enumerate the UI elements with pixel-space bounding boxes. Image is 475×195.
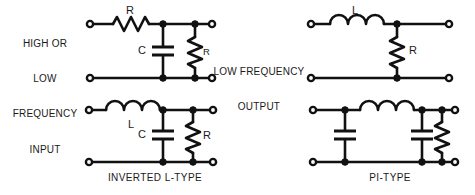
terminal-input-top-left-a [87,21,93,27]
circuit-top-left [87,17,215,81]
label-bl-load-resistor: R [203,129,211,142]
input-label-line-1: HIGH OR [6,38,84,50]
output-label-line-2: OUTPUT [211,101,307,113]
terminal-input-bottom-left-a [86,107,92,113]
label-tr-load-resistor: R [409,44,417,57]
input-label: HIGH OR LOW FREQUENCY INPUT [6,14,84,179]
label-tl-series-resistor: R [126,4,134,17]
input-label-line-2: LOW [6,73,84,85]
terminal-output-top-left-a [209,21,215,27]
input-label-line-4: INPUT [6,144,84,156]
terminal-input-bottom-left-b [86,159,92,165]
label-tl-load-resistor: R [203,46,210,57]
label-tl-shunt-capacitor: C [138,44,146,57]
terminal-input-top-left-b [87,75,93,81]
output-label-line-1: LOW FREQUENCY [211,66,307,78]
terminal-output-top-right-b [446,75,452,81]
terminal-input-top-right-b [308,75,314,81]
terminal-output-bottom-right-b [452,159,458,165]
input-label-line-3: FREQUENCY [6,108,84,120]
caption-inverted-l-type: INVERTED L-TYPE [90,172,220,184]
circuit-bottom-right [310,101,458,165]
label-bl-shunt-capacitor: C [138,128,146,141]
terminal-input-bottom-right-a [310,107,316,113]
circuit-top-right [308,15,452,81]
label-tr-series-inductor: L [352,4,358,17]
label-bl-series-inductor: L [128,118,134,131]
terminal-output-bottom-right-a [452,107,458,113]
terminal-output-bottom-left-b [210,159,216,165]
terminal-input-bottom-right-b [310,159,316,165]
output-label: LOW FREQUENCY OUTPUT [211,42,307,136]
caption-pi-type: PI-TYPE [340,172,440,184]
figure-canvas: HIGH OR LOW FREQUENCY INPUT LOW FREQUENC… [0,0,475,195]
terminal-output-top-right-a [446,21,452,27]
terminal-input-top-right-a [308,21,314,27]
circuit-bottom-left [86,101,216,165]
